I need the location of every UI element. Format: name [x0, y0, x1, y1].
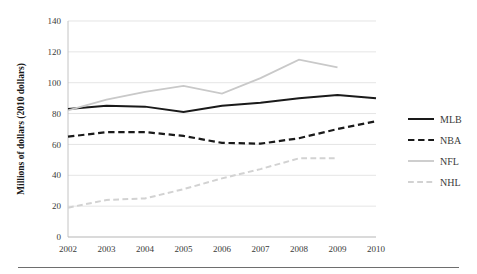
axis-lines	[68, 21, 376, 237]
x-tick-label: 2004	[136, 244, 155, 254]
chart-legend: MLBNBANFLNHL	[408, 114, 462, 188]
x-tick-label: 2005	[175, 244, 194, 254]
line-chart: 020406080100120140 200220032004200520062…	[0, 0, 477, 274]
series-line-nhl	[68, 158, 338, 207]
x-tick-label: 2009	[329, 244, 348, 254]
series-line-nba	[68, 121, 376, 143]
x-tick-label: 2002	[59, 244, 77, 254]
y-tick-label: 20	[52, 201, 62, 211]
y-tick-labels: 020406080100120140	[48, 16, 62, 242]
series-line-nfl	[68, 60, 338, 111]
x-tick-labels: 200220032004200520062007200820092010	[59, 244, 386, 254]
y-tick-label: 40	[52, 170, 62, 180]
x-tick-label: 2010	[367, 244, 386, 254]
legend-label-nba: NBA	[440, 135, 462, 146]
legend-label-nfl: NFL	[440, 156, 459, 167]
gridlines	[68, 21, 376, 237]
y-tick-label: 140	[48, 16, 62, 26]
footer-divider	[18, 267, 459, 268]
chart-figure: 020406080100120140 200220032004200520062…	[0, 0, 477, 274]
y-tick-label: 80	[52, 109, 62, 119]
y-tick-label: 120	[48, 47, 62, 57]
x-tick-label: 2007	[252, 244, 271, 254]
x-tick-label: 2006	[213, 244, 232, 254]
y-axis-title-text: Millions of dollars (2010 dollars)	[16, 63, 27, 195]
legend-label-mlb: MLB	[440, 114, 462, 125]
y-axis-title: Millions of dollars (2010 dollars)	[16, 63, 27, 195]
x-tick-label: 2008	[290, 244, 309, 254]
legend-label-nhl: NHL	[440, 177, 461, 188]
y-tick-label: 0	[57, 232, 62, 242]
data-series	[68, 60, 376, 208]
y-tick-label: 60	[52, 140, 62, 150]
y-tick-label: 100	[48, 78, 62, 88]
x-tick-label: 2003	[98, 244, 117, 254]
